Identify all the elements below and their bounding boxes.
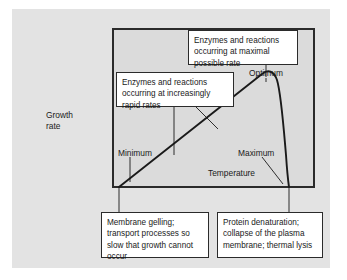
- callout-cold: Membrane gelling; transport processes so…: [101, 212, 209, 258]
- y-axis-label: Growth rate: [46, 110, 98, 133]
- marker-label-maximum: Maximum: [238, 148, 274, 159]
- x-axis-label: Temperature: [208, 168, 255, 179]
- figure-container: Growth rate Temperature Minimum Optimum …: [0, 0, 347, 280]
- callout-rising: Enzymes and reactions occurring at incre…: [116, 72, 234, 107]
- callout-hot: Protein denaturation; collapse of the pl…: [217, 212, 323, 258]
- callout-optimum: Enzymes and reactions occurring at maxim…: [188, 30, 298, 65]
- marker-label-minimum: Minimum: [118, 148, 152, 159]
- marker-label-optimum: Optimum: [249, 68, 283, 79]
